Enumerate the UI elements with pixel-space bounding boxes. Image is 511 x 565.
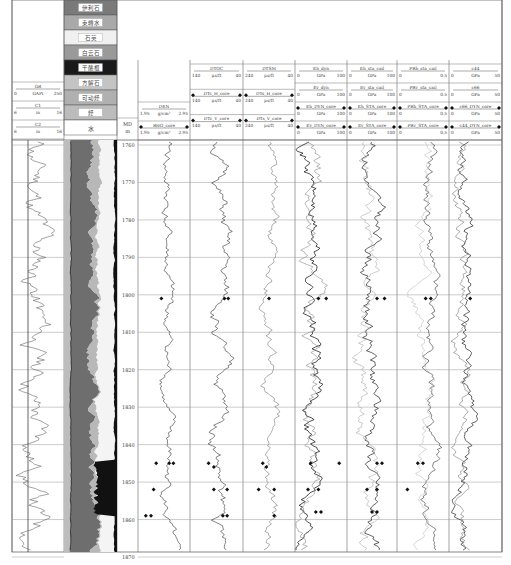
scale-max: 0.5 bbox=[440, 73, 447, 78]
core-data-point bbox=[171, 461, 175, 465]
curve-header-prh-sta-core: PRh_STA_core00.5 bbox=[397, 102, 449, 116]
depth-tick-label: 1780 bbox=[122, 217, 135, 223]
curve-name: DTSM bbox=[262, 66, 276, 71]
scale-min: 0 bbox=[451, 92, 454, 97]
scale-min: 0 bbox=[297, 111, 300, 116]
lithology-legend-label: 束缚水 bbox=[82, 19, 100, 27]
curve-header-eh-dyn: Eh_dyn0GPa100 bbox=[295, 64, 347, 78]
curve-header-ev-dyn-core: Ev_DYN_core0GPa100 bbox=[295, 121, 347, 135]
core-data-point bbox=[309, 461, 313, 465]
scale-unit: GPa bbox=[368, 111, 377, 116]
lithology-legend-label: 伊利石 bbox=[82, 4, 100, 12]
scale-min: 240 bbox=[245, 123, 253, 128]
scale-min: 0 bbox=[451, 111, 454, 116]
curve-header-prv-sta-cail: PRv_sta_cail00.5 bbox=[397, 83, 449, 97]
lithology-legend-label: 烃 bbox=[88, 109, 94, 117]
core-data-point bbox=[429, 297, 433, 301]
core-data-point bbox=[324, 297, 328, 301]
core-data-point bbox=[149, 514, 153, 518]
curve-name: Ev_dyn bbox=[313, 85, 329, 91]
scale-unit: GAPI bbox=[32, 91, 43, 96]
curve-header-c44-dyn-core: c44_DYN_core0GPa50 bbox=[449, 121, 502, 135]
scale-unit: GPa bbox=[317, 92, 326, 97]
core-data-point bbox=[424, 297, 428, 301]
scale-min: 1.95 bbox=[140, 111, 150, 116]
curve-name: c66_DYN_core bbox=[460, 104, 492, 110]
scale-unit: GPa bbox=[317, 130, 326, 135]
scale-min: 0 bbox=[349, 130, 352, 135]
scale-unit: g/cm³ bbox=[158, 111, 171, 116]
scale-min: 0 bbox=[349, 73, 352, 78]
log-curve bbox=[451, 142, 470, 550]
curve-name: DTOC bbox=[210, 66, 224, 71]
depth-tick-label: 1820 bbox=[122, 367, 135, 373]
scale-unit: GPa bbox=[368, 92, 377, 97]
core-data-point bbox=[167, 461, 171, 465]
depth-tick-label: 1830 bbox=[122, 404, 135, 410]
curve-name: PRh_STA_core bbox=[407, 104, 439, 110]
scale-max: 40 bbox=[288, 123, 294, 128]
log-curve bbox=[408, 142, 435, 550]
depth-tick-label: 1860 bbox=[122, 517, 135, 523]
core-data-point bbox=[380, 461, 384, 465]
core-data-point bbox=[225, 514, 229, 518]
scale-unit: GPa bbox=[471, 92, 480, 97]
curve-name: Eh_STA_core bbox=[358, 104, 387, 110]
scale-unit: in bbox=[36, 110, 40, 115]
depth-tick-label: 1790 bbox=[122, 254, 135, 260]
scale-min: 0 bbox=[399, 92, 402, 97]
core-data-point bbox=[375, 510, 379, 514]
scale-max: 0.5 bbox=[440, 111, 447, 116]
scale-min: 0 bbox=[297, 130, 300, 135]
scale-max: 40 bbox=[236, 73, 242, 78]
core-data-point bbox=[416, 461, 420, 465]
scale-max: 16 bbox=[57, 129, 63, 134]
scale-max: 0.5 bbox=[440, 130, 447, 135]
curve-header-den: DEN1.95g/cm³2.95 bbox=[138, 102, 190, 116]
curve-header-dts-v-core: DTs_V_core240μs/ft40 bbox=[243, 115, 295, 129]
depth-tick-label: 1760 bbox=[122, 142, 135, 148]
curve-header-prh-sta-cail: PRh_sta_cail00.5 bbox=[397, 64, 449, 78]
core-data-point bbox=[314, 510, 318, 514]
log-curve bbox=[452, 142, 478, 550]
core-data-point bbox=[154, 461, 158, 465]
curve-header-ev-dyn: Ev_dyn0GPa100 bbox=[295, 83, 347, 97]
log-curve bbox=[16, 142, 54, 550]
scale-min: 0 bbox=[297, 92, 300, 97]
curve-name: DEN bbox=[159, 104, 170, 109]
core-data-point bbox=[226, 297, 230, 301]
curve-name: DTs_V_core bbox=[256, 116, 282, 122]
scale-unit: μs/ft bbox=[264, 98, 274, 103]
scale-min: 240 bbox=[245, 73, 253, 78]
scale-unit: GPa bbox=[317, 111, 326, 116]
curve-header-c2: C26in16 bbox=[12, 120, 64, 134]
core-data-point bbox=[375, 297, 379, 301]
core-data-point bbox=[306, 488, 310, 492]
scale-min: 240 bbox=[245, 98, 253, 103]
depth-tick-label: 1770 bbox=[122, 179, 135, 185]
scale-max: 0.5 bbox=[440, 92, 447, 97]
scale-min: 0 bbox=[399, 111, 402, 116]
curve-header-rho-core: RHO_core1.95g/cm³2.95 bbox=[138, 121, 190, 135]
scale-unit: GPa bbox=[471, 130, 480, 135]
curve-header-c1: C16in16 bbox=[12, 101, 64, 115]
curve-name: GR bbox=[35, 84, 42, 89]
scale-max: 40 bbox=[236, 123, 242, 128]
core-data-point bbox=[383, 297, 387, 301]
scale-max: 100 bbox=[337, 130, 345, 135]
illite-fill bbox=[64, 140, 71, 552]
scale-unit: g/cm³ bbox=[158, 130, 171, 135]
curve-header-c44: c440GPa50 bbox=[449, 64, 502, 78]
scale-max: 50 bbox=[495, 92, 501, 97]
scale-min: 6 bbox=[14, 129, 17, 134]
curve-name: PRv_STA_core bbox=[407, 123, 439, 129]
depth-tick-label: 1870 bbox=[122, 554, 135, 560]
scale-min: 0 bbox=[399, 73, 402, 78]
log-curve bbox=[160, 142, 181, 550]
curve-header-eh-dyn-core: Eh_DYN_core0GPa100 bbox=[295, 102, 347, 116]
core-data-point bbox=[267, 297, 271, 301]
curve-name: Eh_dyn bbox=[313, 66, 329, 72]
core-data-point bbox=[212, 488, 216, 492]
core-data-point bbox=[144, 514, 148, 518]
depth-header-label: MD bbox=[123, 121, 132, 127]
